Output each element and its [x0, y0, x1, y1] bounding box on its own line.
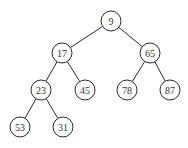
node-label: 45: [80, 85, 90, 96]
tree-node-17: 17: [52, 43, 72, 63]
tree-node-53: 53: [10, 117, 30, 137]
heap-tree-diagram: 91765234578875331: [0, 0, 188, 148]
node-label: 53: [15, 122, 25, 133]
tree-node-65: 65: [140, 43, 160, 63]
node-label: 78: [122, 85, 132, 96]
edge-23-31: [46, 99, 58, 119]
node-label: 65: [145, 48, 155, 59]
node-label: 9: [109, 16, 114, 27]
edge-65-78: [132, 61, 144, 81]
tree-node-78: 78: [117, 80, 137, 100]
node-label: 87: [165, 85, 175, 96]
node-label: 23: [36, 85, 46, 96]
edge-9-65: [119, 27, 143, 46]
edge-23-53: [25, 99, 36, 119]
node-label: 31: [58, 122, 68, 133]
edge-9-17: [70, 26, 102, 47]
tree-nodes: 91765234578875331: [10, 11, 180, 137]
tree-node-23: 23: [31, 80, 51, 100]
edge-65-87: [155, 62, 165, 81]
tree-node-45: 45: [75, 80, 95, 100]
edge-17-45: [67, 61, 79, 81]
tree-node-31: 31: [53, 117, 73, 137]
tree-node-9: 9: [101, 11, 121, 31]
tree-edges: [25, 26, 165, 118]
node-label: 17: [57, 48, 67, 59]
tree-node-87: 87: [160, 80, 180, 100]
edge-17-23: [46, 62, 57, 82]
